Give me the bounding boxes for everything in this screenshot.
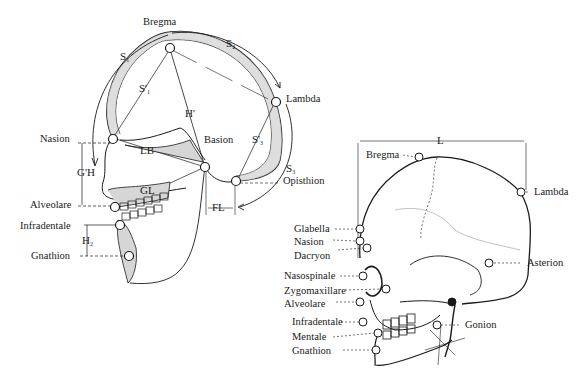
label-infradentale-right: Infradentale	[292, 316, 343, 328]
measure-lb: LB	[140, 144, 154, 156]
label-bregma-right: Bregma	[366, 149, 399, 161]
label-basion: Basion	[204, 134, 233, 146]
measure-l: L	[437, 134, 444, 146]
label-lambda-left: Lambda	[286, 93, 320, 105]
measure-s3-chord: S'3	[252, 133, 263, 149]
measure-h-prime: H'	[185, 107, 195, 119]
measure-h2: H2	[82, 234, 93, 250]
label-gonion: Gonion	[465, 319, 497, 331]
measure-fl: FL	[212, 201, 225, 213]
label-gnathion-right: Gnathion	[292, 345, 331, 357]
label-glabella: Glabella	[294, 223, 330, 235]
label-zygomaxillare: Zygomaxillare	[284, 285, 346, 297]
label-nasospinale: Nasospinale	[284, 270, 335, 282]
label-alveolare-left: Alveolare	[30, 199, 71, 211]
label-mentale: Mentale	[292, 331, 326, 343]
label-bregma-left: Bregma	[143, 16, 176, 28]
skull-craniometry-figure: Bregma Lambda Nasion Basion Opisthion Al…	[0, 0, 586, 377]
label-gnathion-left: Gnathion	[31, 250, 70, 262]
measure-s3: S3	[286, 162, 295, 178]
measure-s1-chord: S'1	[139, 82, 150, 98]
measure-gh: G'H	[77, 166, 95, 178]
label-dacryon: Dacryon	[294, 250, 330, 262]
label-asterion: Asterion	[527, 257, 563, 269]
measure-gl: GL	[140, 184, 155, 196]
label-infradentale-left: Infradentale	[20, 220, 71, 232]
measure-s2: S2	[226, 37, 235, 53]
measure-s1: S1	[120, 50, 129, 66]
label-lambda-right: Lambda	[534, 186, 568, 198]
label-nasion-left: Nasion	[40, 133, 70, 145]
label-nasion-right: Nasion	[294, 236, 324, 248]
label-alveolare-right: Alveolare	[284, 298, 325, 310]
